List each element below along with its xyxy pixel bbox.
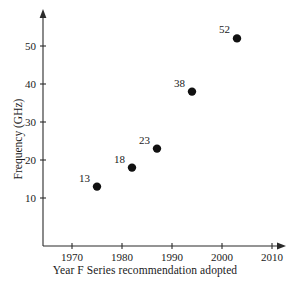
- data-point-marker: [93, 182, 101, 190]
- x-tick-label: 1970: [61, 251, 84, 263]
- y-tick-label: 30: [25, 116, 37, 128]
- data-point-label: 52: [219, 23, 230, 35]
- x-axis-arrow-icon: [277, 243, 286, 250]
- data-points: 1318233852: [79, 23, 241, 190]
- y-axis-title: Frequency (GHz): [12, 64, 24, 214]
- x-tick-label: 2000: [211, 251, 234, 263]
- y-axis-arrow-icon: [40, 9, 47, 18]
- scatter-chart: 19701980199020002010 1020304050 13182338…: [0, 0, 290, 295]
- data-point-marker: [153, 144, 161, 152]
- x-tick-label: 1990: [161, 251, 184, 263]
- x-axis-title: Year F Series recommendation adopted: [0, 264, 290, 276]
- plot-area: 19701980199020002010 1020304050 13182338…: [0, 0, 290, 295]
- y-tick-label: 50: [25, 40, 37, 52]
- data-point-marker: [128, 163, 136, 171]
- data-point-label: 23: [139, 134, 151, 146]
- data-point-marker: [233, 34, 241, 42]
- y-tick-label: 10: [25, 192, 37, 204]
- data-point-marker: [188, 87, 196, 95]
- y-tick-label: 20: [25, 154, 37, 166]
- data-point-label: 13: [79, 172, 91, 184]
- x-tick-label: 2010: [261, 251, 284, 263]
- y-tick-label: 40: [25, 78, 37, 90]
- data-point-label: 38: [174, 77, 186, 89]
- data-point-label: 18: [114, 153, 126, 165]
- x-tick-label: 1980: [111, 251, 134, 263]
- axes: [40, 9, 286, 249]
